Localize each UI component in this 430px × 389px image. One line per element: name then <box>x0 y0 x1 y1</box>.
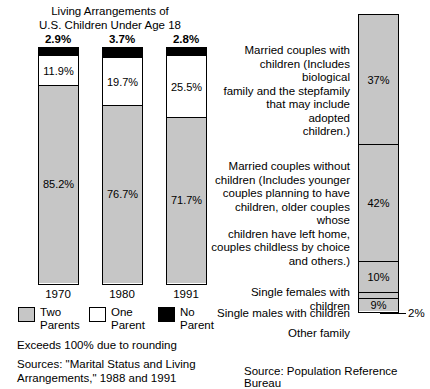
bar-1991-segment-no-parent <box>167 48 206 55</box>
legend-label-one-parent: One Parent <box>111 306 145 332</box>
right-segment-married-with-children: 37% <box>359 15 398 144</box>
legend-swatch-one-parent <box>89 307 106 322</box>
legend-item-one-parent: One Parent <box>89 306 145 332</box>
axis-year-1970: 1970 <box>28 288 88 300</box>
bar-1991-segment-one-parent: 25.5% <box>167 55 206 117</box>
legend-swatch-two-parents <box>18 307 35 322</box>
axis-year-1991: 1991 <box>156 288 216 300</box>
axis-year-1980: 1980 <box>92 288 152 300</box>
bar-1970-top-label: 2.9% <box>28 33 88 45</box>
legend-label-no-parent: No Parent <box>180 306 214 332</box>
family-composition-bar: 37% 42% 10% 9% <box>358 14 399 313</box>
callout-leader-line <box>380 313 406 314</box>
right-label-single-males: Single males with children <box>210 307 350 321</box>
legend-label-two-parents: Two Parents <box>40 306 80 332</box>
right-segment-other-family: 9% <box>359 298 398 311</box>
bar-1980-segment-no-parent <box>103 48 142 57</box>
bar-1980: 19.7% 76.7% <box>102 47 143 285</box>
bar-1980-segment-two-parents: 76.7% <box>103 105 142 283</box>
bar-1980-top-label: 3.7% <box>92 33 152 45</box>
bar-1970-segment-one-parent: 11.9% <box>39 55 78 85</box>
right-value-single-males: 2% <box>408 307 425 319</box>
right-segment-married-without-children: 42% <box>359 144 398 261</box>
bar-1980-segment-one-parent: 19.7% <box>103 57 142 105</box>
bar-1991-segment-two-parents: 71.7% <box>167 117 206 283</box>
bar-1991: 25.5% 71.7% <box>166 47 207 285</box>
bar-1970: 11.9% 85.2% <box>38 47 79 285</box>
legend-item-no-parent: No Parent <box>158 306 214 332</box>
left-chart-footnote: Exceeds 100% due to rounding <box>17 338 227 352</box>
right-segment-single-females: 10% <box>359 261 398 292</box>
left-chart-sources: Sources: "Marital Status and Living Arra… <box>17 357 232 385</box>
left-chart-title: Living Arrangements of U.S. Children Und… <box>10 4 210 32</box>
right-label-married-without-children: Married couples without children (Includ… <box>210 160 350 268</box>
bar-1970-segment-no-parent <box>39 48 78 55</box>
right-label-married-with-children: Married couples with children (Includes … <box>222 44 350 139</box>
bar-1991-top-label: 2.8% <box>156 33 216 45</box>
legend-swatch-no-parent <box>158 307 175 322</box>
right-label-other-family: Other family <box>210 327 350 341</box>
bar-1970-segment-two-parents: 85.2% <box>39 85 78 283</box>
right-chart-source: Source: Population Reference Bureau <box>244 365 430 389</box>
legend-item-two-parents: Two Parents <box>18 306 80 332</box>
